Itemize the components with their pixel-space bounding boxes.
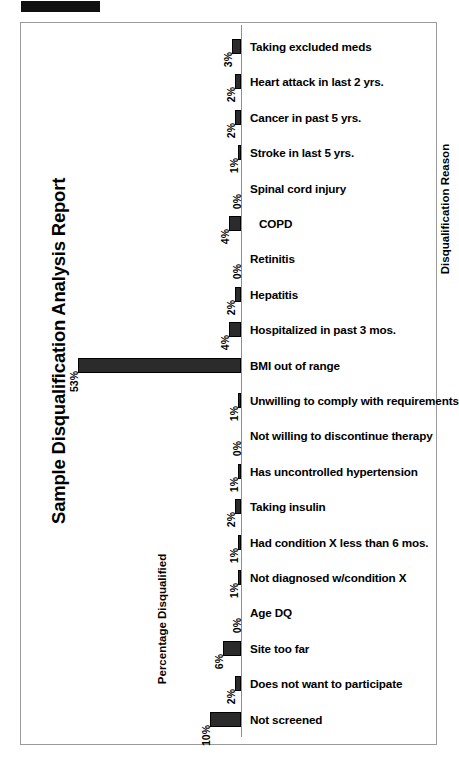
- category-label: Stroke in last 5 yrs.: [250, 145, 354, 160]
- chart-row: 2%Heart attack in last 2 yrs.: [21, 64, 438, 104]
- chart-row: 3%Taking excluded meds: [21, 29, 438, 69]
- category-label: Hepatitis: [250, 287, 298, 302]
- chart-row: 0%Retinitis: [21, 241, 438, 281]
- category-label: Heart attack in last 2 yrs.: [250, 74, 384, 89]
- category-label: Retinitis: [250, 251, 295, 266]
- chart-row: 4%COPD: [21, 206, 438, 246]
- category-label: Had condition X less than 6 mos.: [250, 535, 428, 550]
- chart-row: 2%Does not want to participate: [21, 666, 438, 706]
- category-label: Spinal cord injury: [250, 181, 346, 196]
- category-axis-label: Disqualification Reason: [439, 109, 451, 309]
- bar: [210, 712, 241, 727]
- chart-row: 1%Has uncontrolled hypertension: [21, 454, 438, 494]
- chart-row: 6%Site too far: [21, 631, 438, 671]
- category-label: Has uncontrolled hypertension: [250, 464, 418, 479]
- chart-row: 1%Unwilling to comply with requirements: [21, 383, 438, 423]
- category-label: Not diagnosed w/condition X: [250, 570, 406, 585]
- chart-row: 1%Stroke in last 5 yrs.: [21, 135, 438, 175]
- chart-row: 2%Cancer in past 5 yrs.: [21, 100, 438, 140]
- category-label: Hospitalized in past 3 mos.: [250, 322, 396, 337]
- category-label: Taking insulin: [250, 499, 326, 514]
- category-label: Age DQ: [250, 605, 292, 620]
- category-label: BMI out of range: [250, 358, 340, 373]
- bar: [78, 358, 241, 373]
- chart-frame: Sample Disqualification Analysis Report …: [20, 22, 437, 745]
- category-label: Not screened: [250, 712, 322, 727]
- chart-page: Sample Disqualification Analysis Report …: [0, 0, 459, 758]
- chart-row: 0%Spinal cord injury: [21, 171, 438, 211]
- chart-row: 4%Hospitalized in past 3 mos.: [21, 312, 438, 352]
- chart-row: 2%Taking insulin: [21, 489, 438, 529]
- category-label: Taking excluded meds: [250, 39, 372, 54]
- chart-row: 0%Not willing to discontinue therapy: [21, 418, 438, 458]
- category-label: Site too far: [250, 641, 309, 656]
- chart-row: 10%Not screened: [21, 702, 438, 742]
- chart-row: 0%Age DQ: [21, 595, 438, 635]
- plot-area: 3%Taking excluded meds2%Heart attack in …: [21, 23, 438, 746]
- redacted-header-block: [21, 1, 100, 12]
- category-label: Does not want to participate: [250, 676, 402, 691]
- chart-row: 1%Had condition X less than 6 mos.: [21, 525, 438, 565]
- chart-row: 53%BMI out of range: [21, 348, 438, 388]
- chart-row: 2%Hepatitis: [21, 277, 438, 317]
- category-label: Cancer in past 5 yrs.: [250, 110, 361, 125]
- bar: [223, 641, 241, 656]
- chart-row: 1%Not diagnosed w/condition X: [21, 560, 438, 600]
- bar-value-label: 10%: [200, 725, 212, 758]
- category-label: COPD: [259, 216, 292, 231]
- category-label: Not willing to discontinue therapy: [250, 428, 433, 443]
- category-label: Unwilling to comply with requirements: [250, 393, 459, 408]
